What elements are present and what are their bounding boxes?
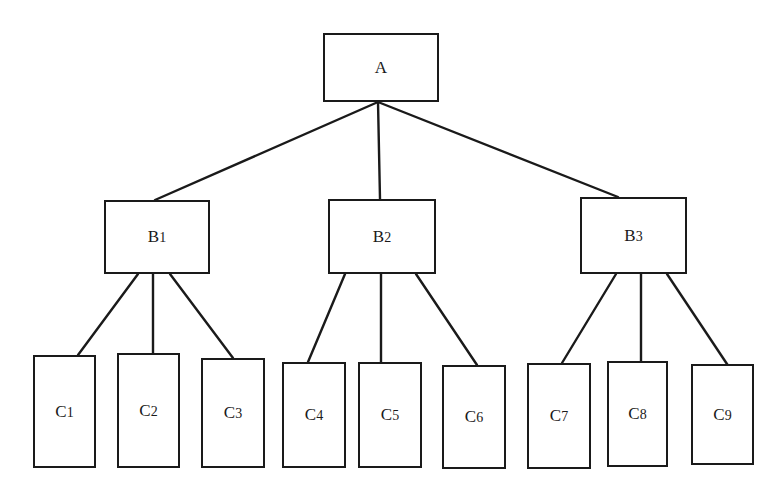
edge-b1-c3 <box>170 274 233 358</box>
node-label-letter: B <box>624 226 635 245</box>
node-label-letter: C <box>628 404 639 423</box>
edge-b3-c7 <box>562 274 616 363</box>
edge-b3-c9 <box>667 274 727 364</box>
node-label: C5 <box>381 405 399 425</box>
node-label-letter: B <box>373 227 384 246</box>
node-label: C8 <box>628 404 646 424</box>
node-b3: B3 <box>580 197 687 274</box>
node-label-letter: C <box>465 407 476 426</box>
node-label-index: 6 <box>476 410 483 425</box>
node-b1: B1 <box>104 200 210 274</box>
edge-b2-c4 <box>308 274 345 362</box>
node-label-letter: C <box>55 402 66 421</box>
node-label-index: 7 <box>561 409 568 424</box>
node-c4: C4 <box>282 362 346 468</box>
node-label: B1 <box>148 227 166 247</box>
edge-b1-c1 <box>78 274 138 355</box>
node-label: A <box>375 58 387 78</box>
node-label: C1 <box>55 402 73 422</box>
node-c2: C2 <box>117 353 180 468</box>
node-label-index: 1 <box>67 405 74 420</box>
node-label-index: 3 <box>235 406 242 421</box>
node-label-letter: C <box>139 401 150 420</box>
tree-diagram: AB1B2B3C1C2C3C4C5C6C7C8C9 <box>0 0 784 502</box>
node-c6: C6 <box>442 365 506 469</box>
node-label: C9 <box>713 405 731 425</box>
node-label-letter: A <box>375 58 387 77</box>
edge-a-b1 <box>155 102 378 200</box>
node-label-index: 2 <box>384 230 391 245</box>
node-label: C4 <box>305 405 323 425</box>
node-label-index: 9 <box>725 408 732 423</box>
node-c5: C5 <box>358 362 422 468</box>
node-label-letter: C <box>550 406 561 425</box>
node-label: B2 <box>373 227 391 247</box>
node-c7: C7 <box>527 363 591 469</box>
node-label: C6 <box>465 407 483 427</box>
node-c1: C1 <box>33 355 96 468</box>
node-label-index: 5 <box>392 408 399 423</box>
edge-a-b2 <box>378 102 380 199</box>
node-label-letter: C <box>381 405 392 424</box>
node-label: B3 <box>624 226 642 246</box>
node-label: C3 <box>224 403 242 423</box>
node-c8: C8 <box>607 361 668 467</box>
node-b2: B2 <box>328 199 436 274</box>
node-label-letter: C <box>305 405 316 424</box>
node-a: A <box>323 33 439 102</box>
node-label-index: 1 <box>159 230 166 245</box>
node-label-letter: B <box>148 227 159 246</box>
node-label-letter: C <box>713 405 724 424</box>
node-label-index: 4 <box>316 408 323 423</box>
node-label: C7 <box>550 406 568 426</box>
edge-b2-c6 <box>416 274 477 365</box>
node-label: C2 <box>139 401 157 421</box>
node-label-index: 8 <box>640 407 647 422</box>
node-c9: C9 <box>691 364 754 465</box>
node-label-index: 2 <box>151 404 158 419</box>
edge-a-b3 <box>378 102 618 197</box>
node-label-index: 3 <box>636 229 643 244</box>
node-c3: C3 <box>201 358 265 468</box>
node-label-letter: C <box>224 403 235 422</box>
